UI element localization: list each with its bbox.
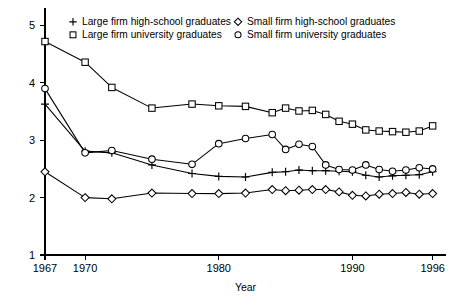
marker-square <box>296 108 302 114</box>
series-line <box>45 42 433 133</box>
y-tick-label: 1 <box>29 249 35 261</box>
y-tick-label: 5 <box>29 19 35 31</box>
marker-diamond <box>335 188 343 196</box>
marker-diamond <box>215 190 223 198</box>
y-tick-label: 2 <box>29 192 35 204</box>
legend-item-0: Large firm high-school graduates <box>69 16 231 27</box>
marker-square <box>309 107 315 113</box>
marker-square <box>403 129 409 135</box>
marker-plus <box>268 168 276 176</box>
marker-diamond <box>348 191 356 199</box>
marker-square <box>109 84 115 90</box>
marker-square <box>336 118 342 124</box>
marker-square <box>189 101 195 107</box>
marker-circle <box>235 32 241 38</box>
marker-square <box>349 121 355 127</box>
marker-square <box>363 127 369 133</box>
marker-square <box>216 103 222 109</box>
marker-diamond <box>295 186 303 194</box>
marker-square <box>282 105 288 111</box>
marker-diamond <box>415 190 423 198</box>
legend-item-1: Large firm university graduates <box>70 29 222 40</box>
series-2 <box>41 168 437 203</box>
x-tick-label: 1990 <box>340 262 364 274</box>
legend-label: Large firm high-school graduates <box>82 16 231 27</box>
marker-square <box>82 59 88 65</box>
marker-square <box>70 32 76 38</box>
marker-plus <box>188 170 196 178</box>
marker-diamond <box>322 186 330 194</box>
marker-circle <box>149 156 156 163</box>
y-tick-label: 4 <box>29 77 35 89</box>
axis-ticks <box>40 25 433 260</box>
marker-plus <box>308 167 316 175</box>
legend-label: Small firm high-school graduates <box>247 16 395 27</box>
marker-circle <box>269 131 276 138</box>
marker-diamond <box>429 190 437 198</box>
series-line <box>45 89 433 172</box>
marker-circle <box>189 161 196 168</box>
x-tick-label: 1980 <box>207 262 231 274</box>
marker-plus <box>415 171 423 179</box>
marker-circle <box>322 162 329 169</box>
marker-diamond <box>148 189 156 197</box>
marker-diamond <box>375 190 383 198</box>
data-series <box>41 38 437 202</box>
marker-diamond <box>234 18 241 25</box>
marker-diamond <box>268 186 276 194</box>
axis-tick-labels: 1234519671970198019901996 <box>29 19 445 274</box>
marker-plus <box>69 18 76 25</box>
chart-legend: Large firm high-school graduatesLarge fi… <box>69 16 395 40</box>
marker-circle <box>403 167 410 174</box>
marker-diamond <box>308 186 316 194</box>
marker-circle <box>309 143 316 150</box>
marker-plus <box>295 166 303 174</box>
series-1 <box>42 38 436 135</box>
marker-circle <box>242 135 249 142</box>
x-axis-title: Year <box>235 281 257 293</box>
marker-square <box>149 105 155 111</box>
marker-square <box>242 103 248 109</box>
marker-circle <box>109 147 116 154</box>
marker-circle <box>336 166 343 173</box>
series-line <box>45 104 433 177</box>
marker-circle <box>363 162 370 169</box>
x-tick-label: 1970 <box>73 262 97 274</box>
marker-circle <box>389 168 396 175</box>
marker-circle <box>42 85 49 92</box>
marker-square <box>416 128 422 134</box>
legend-item-2: Small firm high-school graduates <box>234 16 395 27</box>
marker-diamond <box>242 189 250 197</box>
marker-plus <box>215 172 223 180</box>
marker-plus <box>242 173 250 181</box>
marker-diamond <box>402 188 410 196</box>
marker-circle <box>296 141 303 148</box>
marker-square <box>429 123 435 129</box>
chart-container: 1234519671970198019901996 Large firm hig… <box>0 0 464 303</box>
marker-diamond <box>362 192 370 200</box>
marker-square <box>42 38 48 44</box>
marker-plus <box>375 173 383 181</box>
legend-item-3: Small firm university graduates <box>235 29 386 40</box>
marker-circle <box>282 146 289 153</box>
marker-square <box>323 111 329 117</box>
x-tick-label: 1996 <box>420 262 444 274</box>
line-chart: 1234519671970198019901996 Large firm hig… <box>0 0 464 303</box>
y-tick-label: 3 <box>29 134 35 146</box>
marker-circle <box>82 150 89 157</box>
marker-diamond <box>81 194 89 202</box>
marker-circle <box>416 164 423 171</box>
legend-label: Small firm university graduates <box>247 29 386 40</box>
marker-plus <box>282 168 290 176</box>
marker-diamond <box>188 190 196 198</box>
marker-diamond <box>389 190 397 198</box>
marker-square <box>269 109 275 115</box>
marker-circle <box>376 166 383 173</box>
marker-square <box>376 128 382 134</box>
x-tick-label: 1967 <box>33 262 57 274</box>
marker-circle <box>349 167 356 174</box>
marker-square <box>389 128 395 134</box>
marker-diamond <box>282 187 290 195</box>
legend-label: Large firm university graduates <box>82 29 222 40</box>
marker-plus <box>362 171 370 179</box>
